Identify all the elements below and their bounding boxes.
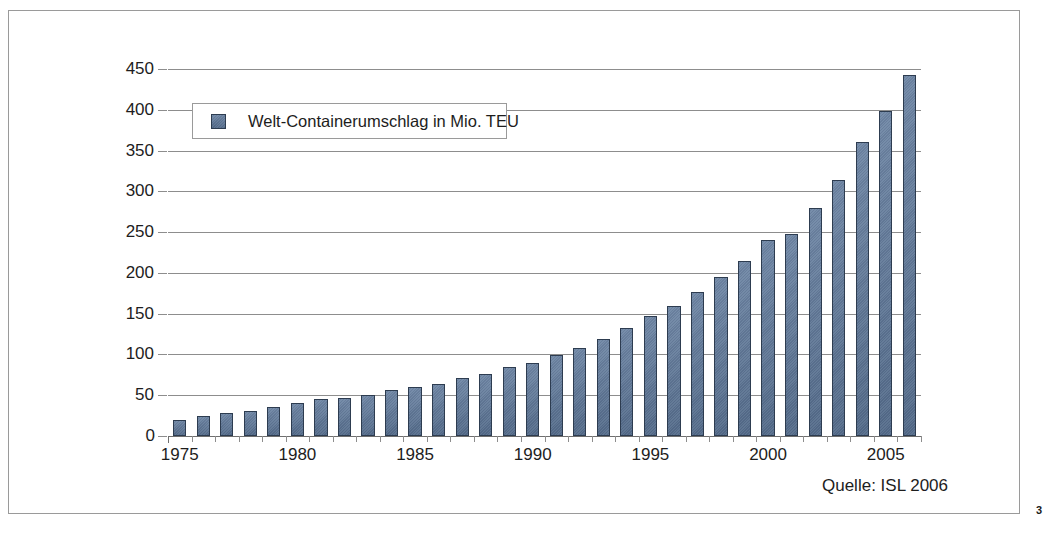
x-axis-tick — [545, 436, 546, 442]
x-axis-label: 1975 — [161, 445, 199, 465]
bar — [267, 407, 280, 436]
y-axis-label: 50 — [135, 385, 154, 405]
y-axis-tick — [158, 395, 167, 396]
x-axis-tick — [450, 436, 451, 442]
x-axis-tick — [827, 436, 828, 442]
bar — [408, 387, 421, 436]
x-axis-tick — [262, 436, 263, 442]
x-axis-tick — [803, 436, 804, 442]
x-axis-tick — [733, 436, 734, 442]
bar — [244, 411, 257, 436]
x-axis-tick — [639, 436, 640, 442]
x-axis-tick — [568, 436, 569, 442]
bar — [338, 398, 351, 436]
bar — [385, 390, 398, 436]
bar — [173, 420, 186, 436]
bar — [620, 328, 633, 436]
x-axis-tick — [874, 436, 875, 442]
bar — [856, 142, 869, 436]
bar — [432, 384, 445, 436]
figure: 050100150200250300350400450 197519801985… — [0, 0, 1047, 542]
x-axis-tick — [780, 436, 781, 442]
x-axis-tick — [403, 436, 404, 442]
y-axis-tick — [158, 232, 167, 233]
y-axis-label: 100 — [126, 344, 154, 364]
y-axis-label: 250 — [126, 222, 154, 242]
bar — [361, 395, 374, 436]
x-axis-tick — [333, 436, 334, 442]
y-axis-label: 200 — [126, 263, 154, 283]
x-axis-tick — [215, 436, 216, 442]
bar — [197, 416, 210, 436]
x-axis: 1975198019851990199520002005 — [168, 436, 921, 443]
bar — [526, 363, 539, 436]
bar — [291, 403, 304, 436]
bar — [220, 413, 233, 436]
y-axis-tick — [158, 273, 167, 274]
y-axis-tick — [158, 110, 167, 111]
page-number: 3 — [1036, 504, 1042, 516]
bar — [667, 306, 680, 436]
x-axis-tick — [592, 436, 593, 442]
bar — [597, 339, 610, 436]
x-axis-tick — [427, 436, 428, 442]
x-axis-tick — [309, 436, 310, 442]
x-axis-tick — [497, 436, 498, 442]
x-axis-tick — [756, 436, 757, 442]
x-axis-label: 2000 — [749, 445, 787, 465]
x-axis-tick — [380, 436, 381, 442]
chart-legend: Welt-Containerumschlag in Mio. TEU — [192, 103, 507, 139]
bar — [479, 374, 492, 436]
y-axis-label: 150 — [126, 304, 154, 324]
bar — [738, 261, 751, 436]
bar — [573, 348, 586, 436]
bar — [691, 292, 704, 436]
bar — [879, 111, 892, 436]
bar — [550, 355, 563, 436]
x-axis-tick — [850, 436, 851, 442]
x-axis-label: 1980 — [279, 445, 317, 465]
y-axis-label: 0 — [146, 426, 155, 446]
x-axis-tick — [521, 436, 522, 442]
y-axis-tick — [158, 354, 167, 355]
x-axis-tick — [686, 436, 687, 442]
x-axis-label: 1995 — [631, 445, 669, 465]
x-axis-tick — [615, 436, 616, 442]
bar — [761, 240, 774, 436]
x-axis-label: 1990 — [514, 445, 552, 465]
chart-frame: 050100150200250300350400450 197519801985… — [8, 10, 1020, 514]
bar — [314, 399, 327, 436]
bar — [832, 180, 845, 436]
x-axis-tick — [239, 436, 240, 442]
y-axis-label: 300 — [126, 181, 154, 201]
y-axis-tick — [158, 436, 167, 437]
bar — [644, 316, 657, 436]
x-axis-tick — [168, 436, 169, 443]
x-axis-tick — [474, 436, 475, 442]
x-axis-tick — [286, 436, 287, 442]
x-axis-tick — [662, 436, 663, 442]
bar — [714, 277, 727, 436]
legend-item-label: Welt-Containerumschlag in Mio. TEU — [248, 112, 519, 131]
y-axis-tick — [158, 151, 167, 152]
x-axis-tick — [192, 436, 193, 442]
x-axis-tick — [921, 436, 922, 442]
y-axis-label: 400 — [126, 100, 154, 120]
bar — [809, 208, 822, 436]
x-axis-label: 1985 — [396, 445, 434, 465]
bar — [456, 378, 469, 436]
bar — [503, 367, 516, 436]
bar — [903, 75, 916, 436]
y-axis-label: 350 — [126, 141, 154, 161]
legend-swatch-icon — [211, 114, 226, 129]
plot-wrapper: 050100150200250300350400450 197519801985… — [9, 11, 1021, 515]
y-axis-tick — [158, 314, 167, 315]
y-axis-label: 450 — [126, 59, 154, 79]
x-axis-tick — [709, 436, 710, 442]
x-axis-tick — [897, 436, 898, 442]
y-axis-tick — [158, 191, 167, 192]
source-note: Quelle: ISL 2006 — [822, 476, 948, 496]
x-axis-tick — [356, 436, 357, 442]
bar — [785, 234, 798, 436]
y-axis-tick — [158, 69, 167, 70]
